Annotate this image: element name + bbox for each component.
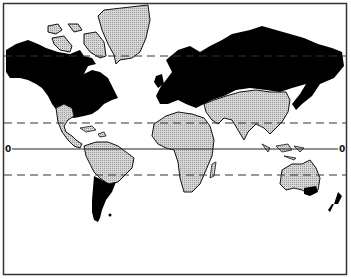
falkland-islands — [109, 214, 112, 217]
world-map — [0, 0, 351, 279]
equator-label-right: 0 — [339, 145, 345, 154]
equator-label-left: 0 — [5, 145, 11, 154]
